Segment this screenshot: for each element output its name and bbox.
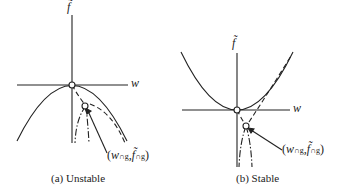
panel-b-arrow-head <box>248 128 254 133</box>
panel-b-origin-point <box>234 107 240 113</box>
panel-b-y-axis-label: f̃ <box>232 36 235 51</box>
panel-a-point-label: (w∩g,f̃∩g) <box>107 148 149 163</box>
panel-b-intersection-point <box>243 123 249 129</box>
w-symbol: w <box>111 148 119 162</box>
panel-b-graphics <box>181 52 293 167</box>
panel-a-dashdot-curve-left <box>75 106 86 143</box>
panel-b-x-axis-label: w <box>293 101 301 116</box>
panel-b-dashed-curve <box>237 56 291 126</box>
panel-a-y-axis-label: f̃ <box>67 0 70 15</box>
paren-close: ) <box>320 142 324 156</box>
diagram-canvas <box>0 0 344 193</box>
f-subscript: ∩g <box>310 146 320 155</box>
panel-b-point-label: (w∩g,f̃∩g) <box>282 142 324 157</box>
panel-a-graphics <box>17 15 128 153</box>
panel-b-caption: (b) Stable <box>236 172 279 184</box>
paren-close: ) <box>145 148 149 162</box>
panel-a-caption: (a) Unstable <box>51 172 105 184</box>
w-subscript: ∩g <box>119 152 129 161</box>
panel-a-origin-point <box>69 82 75 88</box>
panel-b-arrow-line <box>251 130 282 150</box>
w-subscript: ∩g <box>294 146 304 155</box>
f-subscript: ∩g <box>135 152 145 161</box>
panel-a-x-axis-label: w <box>131 76 139 91</box>
panel-a-arrow-line <box>88 111 107 153</box>
panel-a-intersection-point <box>82 103 88 109</box>
w-symbol: w <box>286 142 294 156</box>
panel-b-dashdot-curve-left <box>239 126 246 167</box>
